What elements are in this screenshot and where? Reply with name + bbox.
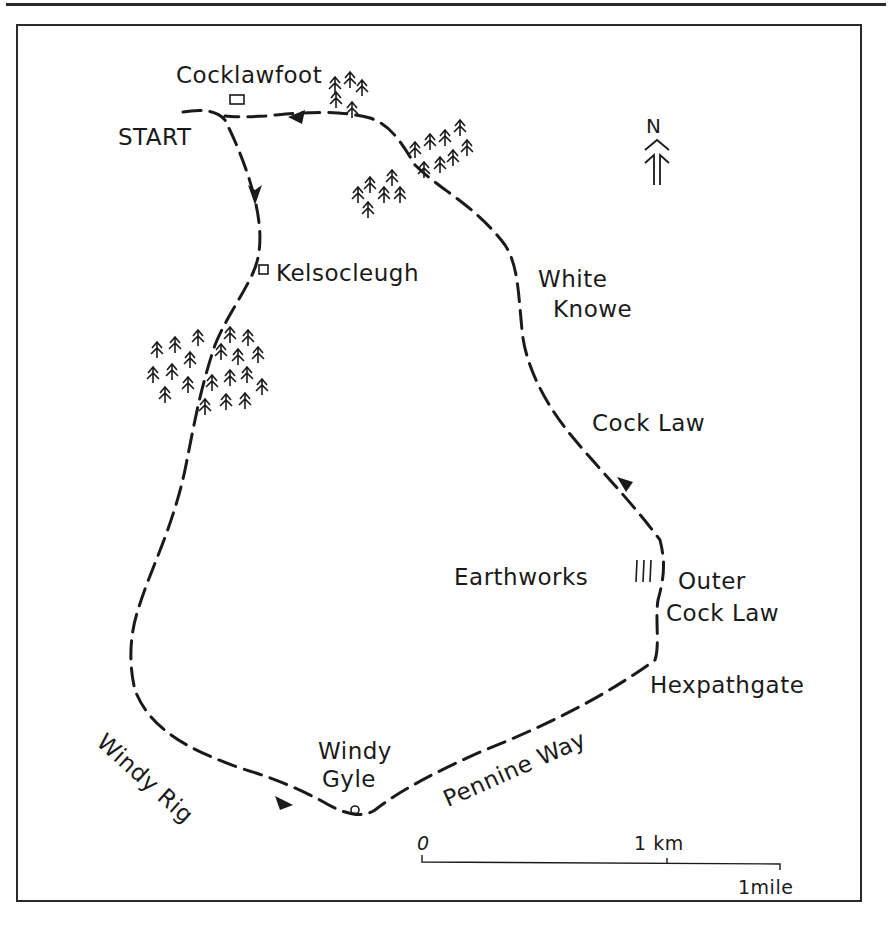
building-icon <box>259 265 268 274</box>
label-hexpathgate: Hexpathgate <box>650 674 804 697</box>
north-arrow-icon <box>645 140 669 185</box>
forest-icon <box>329 72 368 118</box>
scale-km-label: 1 km <box>634 834 684 853</box>
label-windy-gyle: Windy <box>318 740 392 763</box>
label-white-knowe-2: Knowe <box>553 298 632 321</box>
label-white-knowe: White <box>538 268 607 291</box>
label-cock-law: Cock Law <box>592 412 705 435</box>
walking-route <box>131 110 664 814</box>
label-start: START <box>118 126 191 149</box>
forest-icon <box>352 120 473 218</box>
building-icon <box>230 95 244 104</box>
label-outer-cock-law: Outer <box>678 570 746 593</box>
direction-arrow-icon <box>248 185 262 205</box>
label-outer-cock-law-2: Cock Law <box>666 602 779 625</box>
label-kelsocleugh: Kelsocleugh <box>276 262 419 285</box>
direction-arrow-icon <box>288 110 305 124</box>
direction-arrow-icon <box>275 796 293 810</box>
direction-arrow-icon <box>617 477 633 492</box>
earthworks-icon <box>636 560 651 582</box>
label-windy-gyle-2: Gyle <box>322 768 376 791</box>
scale-bar <box>422 855 780 870</box>
label-cocklawfoot: Cocklawfoot <box>176 64 322 87</box>
scale-mile-label: 1mile <box>738 878 793 897</box>
label-earthworks: Earthworks <box>454 566 588 589</box>
scale-zero-label: 0 <box>417 834 430 853</box>
north-label: N <box>646 116 661 136</box>
